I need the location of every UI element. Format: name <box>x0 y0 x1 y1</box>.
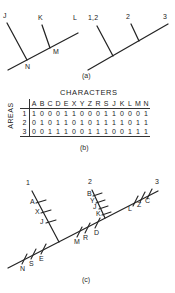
matrix-col-header: K <box>118 99 126 109</box>
matrix-cell: 0 <box>118 109 126 119</box>
matrix-col-header: R <box>94 99 102 109</box>
panel-c-tick-label-m: M <box>74 238 80 245</box>
matrix-cell: 0 <box>126 118 134 127</box>
matrix-cell: 1 <box>62 127 70 137</box>
matrix-cell: 1 <box>38 118 46 127</box>
panel-a-cladograms: J K L N M 1,2 2 3 (a) <box>0 0 175 86</box>
panel-c-tick-label-b: B <box>87 190 92 197</box>
matrix-cell: 1 <box>118 118 126 127</box>
matrix-cell: 1 <box>102 109 110 119</box>
panel-c-tick-label-e: E <box>39 255 44 262</box>
matrix-col-header: X <box>70 99 78 109</box>
matrix-col-header: J <box>110 99 118 109</box>
left-tree-tip-j: J <box>3 12 7 19</box>
matrix-cell: 1 <box>110 118 118 127</box>
matrix-col-header: D <box>54 99 62 109</box>
matrix-cell: 0 <box>38 127 46 137</box>
matrix-cell: 0 <box>78 127 86 137</box>
matrix-col-header: N <box>142 99 150 109</box>
matrix-row: 2 0 1 0 1 1 0 1 0 1 1 1 1 0 1 1 <box>20 118 150 127</box>
matrix-cell: 1 <box>94 127 102 137</box>
matrix-row-header: 1 <box>20 109 30 119</box>
matrix-cell: 1 <box>46 127 54 137</box>
matrix-col-header: E <box>62 99 70 109</box>
matrix-cell: 0 <box>94 109 102 119</box>
panel-c-tick-label-r: R <box>83 234 88 241</box>
matrix-cell: 0 <box>30 118 39 127</box>
matrix-cell: 0 <box>86 118 94 127</box>
panel-c-tick-label-n: N <box>20 265 25 272</box>
characters-axis-title: CHARACTERS <box>60 88 118 97</box>
matrix-cell: 1 <box>78 118 86 127</box>
matrix-cell: 1 <box>126 127 134 137</box>
matrix-col-header: B <box>38 99 46 109</box>
right-tree-tip-1-2: 1,2 <box>88 14 98 21</box>
matrix-cell: 0 <box>38 109 46 119</box>
matrix-header-row: A B C D E X Y Z R S J K L M N <box>20 99 150 109</box>
matrix-cell: 0 <box>126 109 134 119</box>
panel-b-character-matrix: CHARACTERS AREAS A B C D E X Y Z R S J K <box>0 86 175 158</box>
matrix-cell: 1 <box>94 118 102 127</box>
matrix-cell: 1 <box>134 118 142 127</box>
matrix-cell: 0 <box>70 118 78 127</box>
panel-c-tick-label-z: Z <box>137 201 141 208</box>
panel-c-caption: (c) <box>82 276 90 283</box>
matrix-cell: 1 <box>134 127 142 137</box>
matrix-col-header: A <box>30 99 39 109</box>
panel-c-tick-label-a: A <box>30 198 35 205</box>
matrix-body: A B C D E X Y Z R S J K L M N 1 <box>20 99 150 137</box>
matrix-cell: 1 <box>70 109 78 119</box>
matrix-col-header: C <box>46 99 54 109</box>
matrix-cell: 1 <box>54 118 62 127</box>
matrix-cell: 1 <box>86 127 94 137</box>
panel-c-terminal-1: 1 <box>26 179 30 186</box>
left-tree-backbone <box>8 33 78 70</box>
character-matrix-table: A B C D E X Y Z R S J K L M N 1 <box>20 99 150 137</box>
matrix-cell: 0 <box>78 109 86 119</box>
matrix-cell: 0 <box>30 127 39 137</box>
matrix-corner-cell <box>20 99 30 109</box>
matrix-cell: 0 <box>134 109 142 119</box>
matrix-row: 1 1 0 0 0 1 1 0 0 0 1 1 0 0 0 1 <box>20 109 150 119</box>
matrix-cell: 1 <box>142 118 150 127</box>
matrix-cell: 1 <box>102 118 110 127</box>
matrix-cell: 1 <box>142 109 150 119</box>
panel-c-tick-label-l: L <box>128 205 132 212</box>
matrix-cell: 1 <box>110 109 118 119</box>
panel-c-tick-marks <box>22 189 152 264</box>
right-tree-tip-3: 3 <box>163 13 167 20</box>
areas-axis-title: AREAS <box>7 99 14 133</box>
matrix-cell: 0 <box>54 109 62 119</box>
matrix-cell: 1 <box>30 109 39 119</box>
panel-c-tick-label-x: X <box>35 208 40 215</box>
panel-a-caption: (a) <box>82 72 91 79</box>
right-tree-branch-12 <box>97 26 113 56</box>
left-tree-tip-k: K <box>38 14 43 21</box>
panel-c-tick-label-k: K <box>96 210 101 217</box>
left-tree-tip-l: L <box>73 14 77 21</box>
panel-c-tick-label-s: S <box>29 260 34 267</box>
panel-c-terminal-2: 2 <box>88 178 92 185</box>
panel-b-caption: (b) <box>80 144 89 151</box>
right-tree-branch-2 <box>131 24 139 41</box>
panel-c-tick-label-c: C <box>145 197 150 204</box>
left-tree-branch-j <box>7 23 27 60</box>
panel-c-terminal-3: 3 <box>155 178 159 185</box>
matrix-cell: 0 <box>46 109 54 119</box>
panel-c-area-cladogram: 1 2 3 A X J B Y J K L Z C M R D N S E (c… <box>0 158 175 293</box>
matrix-col-header: Y <box>78 99 86 109</box>
left-tree-node-n: N <box>25 63 30 70</box>
panel-c-tick-label-j2: J <box>93 203 97 210</box>
matrix-row: 3 0 0 1 1 1 0 0 1 1 1 0 0 1 1 1 <box>20 127 150 137</box>
matrix-cell: 1 <box>62 109 70 119</box>
matrix-cell: 0 <box>46 118 54 127</box>
matrix-cell: 1 <box>102 127 110 137</box>
figure-container: J K L N M 1,2 2 3 (a) CHARACTERS AREAS A… <box>0 0 175 293</box>
matrix-cell: 1 <box>142 127 150 137</box>
matrix-cell: 0 <box>70 127 78 137</box>
matrix-row-header: 3 <box>20 127 30 137</box>
left-tree-branch-k <box>42 25 50 48</box>
left-tree-node-m: M <box>53 48 59 55</box>
matrix-cell: 1 <box>54 127 62 137</box>
matrix-col-header: M <box>134 99 142 109</box>
